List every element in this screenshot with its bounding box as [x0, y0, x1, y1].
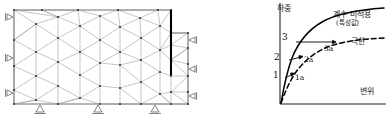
support-roller [6, 89, 14, 97]
mesh-diagram [0, 0, 200, 119]
support-roller [6, 13, 14, 21]
point-label-2a: 2a [304, 55, 313, 64]
figure-root: 하중 변위 계수 미적용 (특성값) 극한 1 2 3 1a 2a 3a [0, 0, 390, 119]
support-roller [189, 36, 197, 44]
y-axis-label: 하중 [277, 5, 291, 13]
point-label-3a: 3a [324, 44, 333, 53]
support-pin [92, 105, 104, 114]
load-displacement-chart-panel: 하중 변위 계수 미적용 (특성값) 극한 1 2 3 1a 2a 3a [262, 0, 390, 119]
right-edge-support-markers [189, 36, 197, 100]
point-label-1: 1 [273, 70, 279, 80]
x-axis-label: 변위 [360, 88, 374, 96]
curve-label-unfactored-line2: (특성값) [336, 20, 359, 27]
support-pin [34, 105, 46, 114]
point-label-1a: 1a [295, 73, 304, 82]
support-roller [189, 92, 197, 100]
connector-arrow-2-2a [289, 56, 303, 60]
point-label-3: 3 [282, 32, 288, 42]
finite-element-mesh-panel [0, 0, 200, 119]
support-pin [149, 105, 161, 114]
bottom-support-group [34, 105, 161, 114]
support-roller [6, 54, 14, 62]
left-edge-support-markers [6, 13, 14, 97]
curve-label-ultimate: 극한 [351, 38, 365, 46]
mesh-outline [14, 10, 188, 104]
mesh-nodes [13, 9, 189, 105]
mesh-element-edges [14, 10, 188, 104]
point-label-2: 2 [274, 52, 280, 62]
support-roller [189, 65, 197, 73]
